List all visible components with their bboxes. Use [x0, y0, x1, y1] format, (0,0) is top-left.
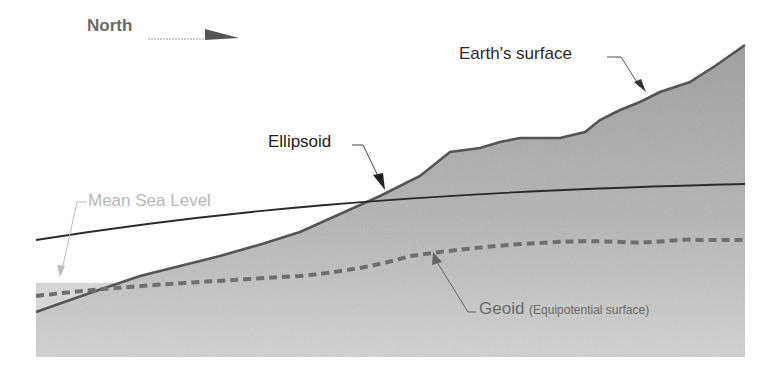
geoid-label: Geoid — [479, 299, 524, 318]
geoid-note: (Equipotential surface) — [529, 303, 649, 317]
ellipsoid-leader — [352, 145, 385, 190]
diagram-canvas — [0, 0, 775, 374]
mean-sea-level-leader — [57, 202, 87, 277]
north-arrow-icon — [148, 29, 239, 40]
geoid-label-group: Geoid (Equipotential surface) — [479, 300, 649, 317]
mean-sea-level-label: Mean Sea Level — [88, 192, 211, 209]
north-label: North — [87, 17, 132, 34]
earth-surface-label: Earth's surface — [459, 45, 572, 62]
earth-surface-leader — [607, 57, 646, 92]
geodesy-diagram: North Earth's surface Ellipsoid Mean Sea… — [0, 0, 775, 374]
ellipsoid-label: Ellipsoid — [268, 133, 331, 150]
